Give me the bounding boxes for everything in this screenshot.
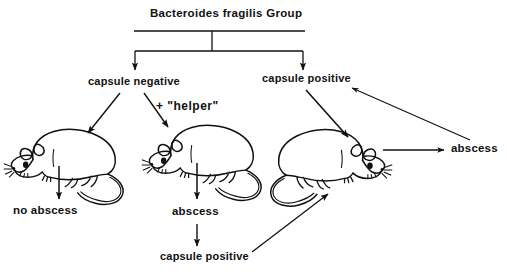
node-capsule-positive-bottom: capsule positive (160, 251, 249, 262)
root-bracket (134, 31, 305, 70)
mouse-left (4, 129, 123, 204)
mouse-middle (142, 125, 261, 200)
node-abscess-middle: abscess (172, 206, 219, 218)
node-abscess-right: abscess (451, 143, 498, 155)
edge-abscess-to-capsule-positive-top (352, 88, 470, 140)
edge-label-helper: + "helper" (156, 100, 219, 112)
diagram-vector-layer (0, 0, 507, 277)
node-no-abscess: no abscess (13, 205, 78, 217)
diagram-canvas: Bacteroides fragilis Group capsule negat… (0, 0, 507, 277)
node-capsule-negative: capsule negative (88, 76, 180, 87)
node-capsule-positive-top: capsule positive (262, 73, 351, 84)
edge-capneg-to-mouse-left (88, 93, 120, 133)
mouse-right (271, 130, 393, 207)
diagram-title: Bacteroides fragilis Group (150, 8, 302, 20)
